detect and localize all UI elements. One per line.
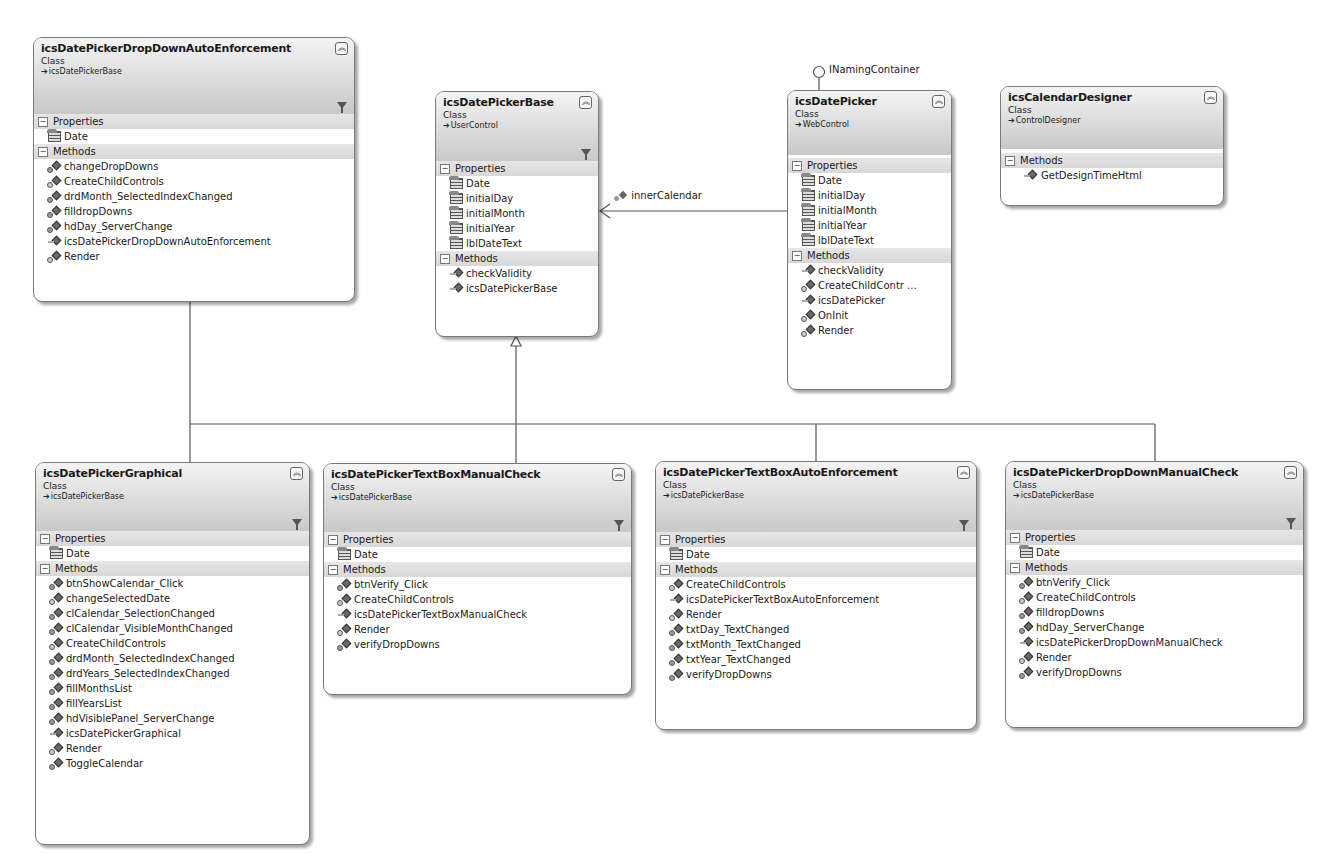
collapse-toggle-icon[interactable]: − — [38, 147, 48, 157]
section-properties[interactable]: −Properties — [788, 158, 951, 173]
filter-icon[interactable] — [337, 102, 347, 109]
method-item[interactable]: icsDatePickerDropDownManualCheck — [1006, 635, 1303, 650]
method-item[interactable]: hdDay_ServerChange — [34, 219, 354, 234]
collapse-chevron-icon[interactable]: ︽ — [932, 95, 945, 108]
collapse-chevron-icon[interactable]: ︽ — [1284, 466, 1297, 479]
method-item[interactable]: drdYears_SelectedIndexChanged — [36, 666, 309, 681]
method-item[interactable]: txtDay_TextChanged — [656, 622, 976, 637]
filter-icon[interactable] — [614, 520, 624, 527]
method-item[interactable]: Render — [788, 323, 951, 338]
section-methods[interactable]: −Methods — [34, 144, 354, 159]
method-item[interactable]: changeDropDowns — [34, 159, 354, 174]
class-box-icsDatePickerBase[interactable]: icsDatePickerBase Class ➔UserControl ︽ −… — [435, 91, 599, 337]
method-item[interactable]: checkValidity — [436, 266, 598, 281]
class-box-icsDatePickerTextBoxManualCheck[interactable]: icsDatePickerTextBoxManualCheck Class ➔i… — [323, 463, 632, 695]
property-item[interactable]: Date — [34, 129, 354, 144]
method-item[interactable]: icsDatePickerTextBoxManualCheck — [324, 607, 631, 622]
method-item[interactable]: fillYearsList — [36, 696, 309, 711]
collapse-toggle-icon[interactable]: − — [1010, 533, 1020, 543]
method-item[interactable]: CreateChildContr ... — [788, 278, 951, 293]
method-item[interactable]: hdVisiblePanel_ServerChange — [36, 711, 309, 726]
collapse-chevron-icon[interactable]: ︽ — [612, 468, 625, 481]
collapse-chevron-icon[interactable]: ︽ — [290, 467, 303, 480]
class-box-icsDatePicker[interactable]: icsDatePicker Class ➔WebControl ︽ −Prope… — [787, 90, 952, 390]
method-item[interactable]: icsDatePickerBase — [436, 281, 598, 296]
collapse-toggle-icon[interactable]: − — [328, 565, 338, 575]
property-item[interactable]: initialYear — [788, 218, 951, 233]
property-item[interactable]: Date — [788, 173, 951, 188]
method-item[interactable]: icsDatePickerDropDownAutoEnforcement — [34, 234, 354, 249]
method-item[interactable]: icsDatePickerGraphical — [36, 726, 309, 741]
section-properties[interactable]: −Properties — [1006, 530, 1303, 545]
section-methods[interactable]: −Methods — [36, 561, 309, 576]
section-methods[interactable]: −Methods — [656, 562, 976, 577]
property-item[interactable]: initialDay — [788, 188, 951, 203]
collapse-toggle-icon[interactable]: − — [792, 161, 802, 171]
section-properties[interactable]: −Properties — [656, 532, 976, 547]
filter-icon[interactable] — [959, 520, 969, 527]
method-item[interactable]: clCalendar_VisibleMonthChanged — [36, 621, 309, 636]
method-item[interactable]: verifyDropDowns — [656, 667, 976, 682]
class-box-icsDatePickerDropDownAutoEnforcement[interactable]: icsDatePickerDropDownAutoEnforcement Cla… — [33, 37, 355, 302]
class-box-icsDatePickerDropDownManualCheck[interactable]: icsDatePickerDropDownManualCheck Class ➔… — [1005, 461, 1304, 728]
filter-icon[interactable] — [292, 519, 302, 526]
collapse-toggle-icon[interactable]: − — [660, 565, 670, 575]
method-item[interactable]: verifyDropDowns — [324, 637, 631, 652]
collapse-toggle-icon[interactable]: − — [660, 535, 670, 545]
collapse-toggle-icon[interactable]: − — [328, 535, 338, 545]
collapse-toggle-icon[interactable]: − — [440, 164, 450, 174]
class-box-icsCalendarDesigner[interactable]: icsCalendarDesigner Class ➔ControlDesign… — [1000, 86, 1224, 206]
section-properties[interactable]: −Properties — [34, 114, 354, 129]
section-methods[interactable]: −Methods — [436, 251, 598, 266]
property-item[interactable]: Date — [656, 547, 976, 562]
property-item[interactable]: Date — [436, 176, 598, 191]
method-item[interactable]: btnShowCalendar_Click — [36, 576, 309, 591]
collapse-toggle-icon[interactable]: − — [1010, 563, 1020, 573]
method-item[interactable]: CreateChildControls — [1006, 590, 1303, 605]
class-box-icsDatePickerTextBoxAutoEnforcement[interactable]: icsDatePickerTextBoxAutoEnforcement Clas… — [655, 461, 977, 730]
section-methods[interactable]: −Methods — [1006, 560, 1303, 575]
method-item[interactable]: CreateChildControls — [324, 592, 631, 607]
method-item[interactable]: btnVerify_Click — [1006, 575, 1303, 590]
section-properties[interactable]: −Properties — [36, 531, 309, 546]
section-properties[interactable]: −Properties — [324, 532, 631, 547]
section-methods[interactable]: −Methods — [324, 562, 631, 577]
property-item[interactable]: Date — [36, 546, 309, 561]
method-item[interactable]: hdDay_ServerChange — [1006, 620, 1303, 635]
method-item[interactable]: Render — [324, 622, 631, 637]
method-item[interactable]: txtYear_TextChanged — [656, 652, 976, 667]
method-item[interactable]: Render — [36, 741, 309, 756]
method-item[interactable]: icsDatePickerTextBoxAutoEnforcement — [656, 592, 976, 607]
collapse-toggle-icon[interactable]: − — [792, 251, 802, 261]
section-methods[interactable]: −Methods — [788, 248, 951, 263]
method-item[interactable]: CreateChildControls — [34, 174, 354, 189]
method-item[interactable]: changeSelectedDate — [36, 591, 309, 606]
property-item[interactable]: initialMonth — [788, 203, 951, 218]
property-item[interactable]: Date — [324, 547, 631, 562]
method-item[interactable]: Render — [34, 249, 354, 264]
property-item[interactable]: lblDateText — [436, 236, 598, 251]
collapse-chevron-icon[interactable]: ︽ — [579, 96, 592, 109]
method-item[interactable]: drdMonth_SelectedIndexChanged — [36, 651, 309, 666]
property-item[interactable]: initialMonth — [436, 206, 598, 221]
method-item[interactable]: fillMonthsList — [36, 681, 309, 696]
method-item[interactable]: drdMonth_SelectedIndexChanged — [34, 189, 354, 204]
filter-icon[interactable] — [581, 149, 591, 156]
method-item[interactable]: filldropDowns — [1006, 605, 1303, 620]
section-methods[interactable]: −Methods — [1001, 153, 1223, 168]
method-item[interactable]: verifyDropDowns — [1006, 665, 1303, 680]
collapse-toggle-icon[interactable]: − — [38, 117, 48, 127]
property-item[interactable]: initialDay — [436, 191, 598, 206]
method-item[interactable]: GetDesignTimeHtml — [1001, 168, 1223, 183]
collapse-chevron-icon[interactable]: ︽ — [1204, 91, 1217, 104]
property-item[interactable]: initialYear — [436, 221, 598, 236]
collapse-toggle-icon[interactable]: − — [1005, 156, 1015, 166]
method-item[interactable]: checkValidity — [788, 263, 951, 278]
filter-icon[interactable] — [1286, 518, 1296, 525]
property-item[interactable]: Date — [1006, 545, 1303, 560]
method-item[interactable]: Render — [1006, 650, 1303, 665]
method-item[interactable]: CreateChildControls — [656, 577, 976, 592]
method-item[interactable]: ToggleCalendar — [36, 756, 309, 771]
method-item[interactable]: filldropDowns — [34, 204, 354, 219]
collapse-chevron-icon[interactable]: ︽ — [335, 42, 348, 55]
